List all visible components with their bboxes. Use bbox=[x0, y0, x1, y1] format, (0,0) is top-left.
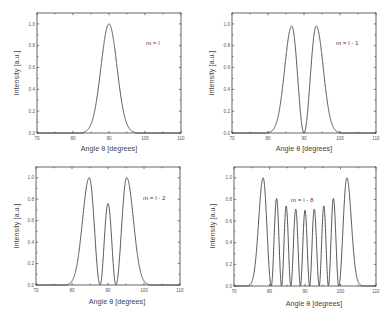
plot-frame bbox=[232, 13, 376, 133]
y-axis-label: Intensity [a.u.] bbox=[208, 204, 217, 249]
x-tick-label: 90 bbox=[302, 289, 308, 294]
x-tick-label: 110 bbox=[177, 136, 185, 141]
x-axis-label: Angle θ [degrees] bbox=[286, 299, 342, 308]
y-tick-label: 0.0 bbox=[224, 131, 231, 136]
plot-frame bbox=[37, 13, 181, 133]
y-tick-label: 0.6 bbox=[28, 218, 35, 223]
x-axis-label: Angle θ [degrees] bbox=[276, 144, 332, 153]
y-tick-label: 0.0 bbox=[29, 131, 36, 136]
axis-ticks: 7080901001100.00.20.40.60.81.0 bbox=[226, 167, 380, 294]
y-tick-label: 0.8 bbox=[226, 197, 233, 202]
x-tick-label: 70 bbox=[229, 136, 235, 141]
y-tick-label: 0.0 bbox=[28, 283, 35, 288]
y-tick-label: 0.2 bbox=[29, 109, 36, 114]
y-tick-label: 0.8 bbox=[29, 43, 36, 48]
y-tick-label: 1.0 bbox=[29, 22, 36, 27]
y-tick-label: 0.2 bbox=[28, 261, 35, 266]
y-tick-label: 0.6 bbox=[29, 65, 36, 70]
x-tick-label: 70 bbox=[231, 289, 237, 294]
x-tick-label: 70 bbox=[34, 136, 40, 141]
plot-frame bbox=[36, 167, 180, 285]
y-tick-label: 0.2 bbox=[224, 109, 231, 114]
y-tick-label: 0.8 bbox=[28, 197, 35, 202]
x-tick-label: 100 bbox=[141, 136, 149, 141]
y-axis-label: Intensity [a.u.] bbox=[12, 204, 21, 249]
x-tick-label: 80 bbox=[267, 289, 273, 294]
panel-m-l-minus-2: 7080901001100.00.20.40.60.81.0 m = l - 2… bbox=[12, 167, 184, 306]
plot-frame bbox=[234, 167, 376, 286]
axis-ticks: 7080901001100.00.20.40.60.81.0 bbox=[29, 13, 185, 141]
x-tick-label: 110 bbox=[372, 289, 380, 294]
y-tick-label: 1.0 bbox=[28, 175, 35, 180]
y-tick-label: 1.0 bbox=[226, 175, 233, 180]
x-tick-label: 90 bbox=[105, 288, 111, 293]
x-axis-label: Angle θ [degrees] bbox=[89, 297, 145, 306]
x-tick-label: 110 bbox=[372, 136, 380, 141]
panel-m-l-minus-1: 7080901001100.00.20.40.60.81.0 m = l - 1… bbox=[207, 13, 380, 153]
x-tick-label: 80 bbox=[265, 136, 271, 141]
y-tick-label: 0.4 bbox=[29, 87, 36, 92]
panel-m-l: 7080901001100.00.20.40.60.81.0 m = l Ang… bbox=[12, 13, 185, 153]
mode-annotation: m = l bbox=[146, 39, 160, 46]
x-tick-label: 100 bbox=[337, 289, 345, 294]
axis-ticks: 7080901001100.00.20.40.60.81.0 bbox=[224, 13, 380, 141]
x-tick-label: 110 bbox=[176, 288, 184, 293]
figure-canvas: 7080901001100.00.20.40.60.81.0 m = l Ang… bbox=[0, 0, 390, 320]
y-tick-label: 0.4 bbox=[224, 87, 231, 92]
x-tick-label: 100 bbox=[336, 136, 344, 141]
x-tick-label: 70 bbox=[33, 288, 39, 293]
panel-m-l-minus-8: 7080901001100.00.20.40.60.81.0 m = l - 8… bbox=[208, 167, 380, 308]
y-tick-label: 0.8 bbox=[224, 43, 231, 48]
y-tick-label: 0.2 bbox=[226, 262, 233, 267]
x-tick-label: 90 bbox=[106, 136, 112, 141]
mode-annotation: m = l - 2 bbox=[143, 194, 166, 201]
y-tick-label: 1.0 bbox=[224, 22, 231, 27]
y-tick-label: 0.4 bbox=[28, 240, 35, 245]
mode-annotation: m = l - 8 bbox=[291, 196, 314, 203]
y-tick-label: 0.6 bbox=[224, 65, 231, 70]
y-axis-label: Intensity [a.u.] bbox=[207, 51, 216, 96]
y-tick-label: 0.4 bbox=[226, 240, 233, 245]
y-tick-label: 0.0 bbox=[226, 284, 233, 289]
x-tick-label: 90 bbox=[301, 136, 307, 141]
mode-annotation: m = l - 1 bbox=[336, 39, 359, 46]
y-axis-label: Intensity [a.u.] bbox=[12, 51, 21, 96]
x-tick-label: 80 bbox=[69, 288, 75, 293]
axis-ticks: 7080901001100.00.20.40.60.81.0 bbox=[28, 167, 184, 293]
x-tick-label: 100 bbox=[140, 288, 148, 293]
x-axis-label: Angle θ [degrees] bbox=[81, 144, 137, 153]
x-tick-label: 80 bbox=[70, 136, 76, 141]
y-tick-label: 0.6 bbox=[226, 219, 233, 224]
intensity-curve bbox=[234, 178, 376, 286]
